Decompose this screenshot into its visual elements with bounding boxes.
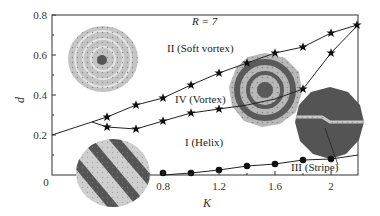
region-label-vortex: IV (Vortex) [175,93,226,106]
x-tick-1.2: 1.2 [212,180,226,192]
x-tick-0.8: 0.8 [156,180,170,192]
y-tick-0.8: 0.8 [33,9,47,21]
helix-texture [70,127,160,215]
soft-vortex-texture [60,20,150,100]
origin-label: 0 [43,176,49,188]
region-label-helix: I (Helix) [185,136,224,149]
y-tick-0.4: 0.4 [33,89,47,101]
x-axis-label: K [202,196,212,210]
phase-diagram-chart: 0.8 0.6 0.4 0.2 0 0.8 1.2 1.6 2 K d R = … [0,0,380,216]
vortex-texture [225,50,305,130]
x-tick-2: 2 [328,180,334,192]
region-label-soft-vortex: II (Soft vortex) [167,42,234,55]
x-tick-1.6: 1.6 [268,180,282,192]
y-tick-0.6: 0.6 [33,49,47,61]
r-annotation: R = 7 [191,15,218,27]
y-tick-0.2: 0.2 [33,129,47,141]
region-label-stripe: III (Stripe) [291,161,339,174]
y-axis-label: d [13,96,27,103]
